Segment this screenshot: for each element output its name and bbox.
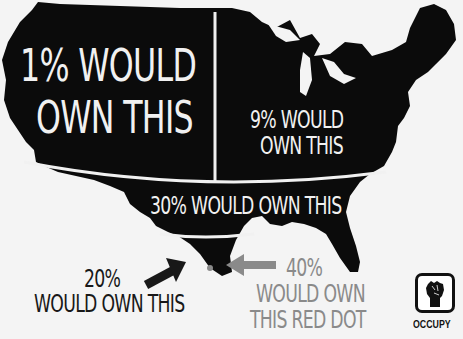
label-40pct-line2: WOULD OWN xyxy=(256,282,365,306)
label-30pct: 30% WOULD OWN THIS xyxy=(150,194,341,218)
label-40pct-line3: THIS RED DOT xyxy=(250,308,366,332)
arrow-40-icon xyxy=(226,254,276,276)
arrow-20-icon xyxy=(146,258,186,285)
label-40pct-line1: 40% xyxy=(286,256,322,280)
label-1pct-line1: 1% WOULD xyxy=(20,44,196,88)
raised-fist-icon xyxy=(418,276,452,310)
label-9pct-line2: OWN THIS xyxy=(260,134,343,158)
occupy-label: OCCUPY xyxy=(413,318,451,330)
label-20pct-line2: WOULD OWN THIS xyxy=(34,292,184,316)
label-1pct-line2: OWN THIS xyxy=(36,96,193,140)
occupy-logo xyxy=(415,273,455,313)
poster: 1% WOULD OWN THIS 9% WOULD OWN THIS 30% … xyxy=(0,0,463,339)
label-20pct-line1: 20% xyxy=(84,267,120,291)
label-9pct-line1: 9% WOULD xyxy=(250,108,343,132)
red-dot xyxy=(207,265,213,271)
